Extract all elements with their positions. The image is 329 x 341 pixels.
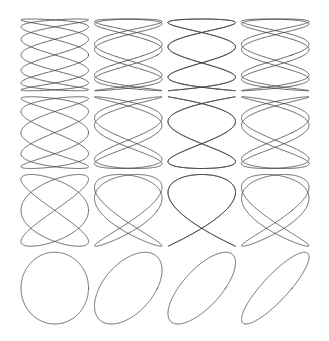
lissajous-svg-canvas — [0, 0, 329, 341]
figure-background — [0, 0, 329, 341]
lissajous-figure — [0, 0, 329, 341]
